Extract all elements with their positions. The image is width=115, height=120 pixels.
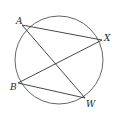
label-B: B: [9, 82, 17, 92]
circle: [15, 16, 103, 104]
segment-BX: [18, 40, 102, 83]
segment-BW: [18, 83, 85, 98]
segment-AW: [22, 25, 85, 98]
circle-diagram: A X B W: [0, 0, 115, 120]
label-W: W: [86, 99, 96, 109]
label-A: A: [15, 16, 23, 26]
label-X: X: [103, 33, 111, 43]
segment-AX: [22, 25, 102, 40]
